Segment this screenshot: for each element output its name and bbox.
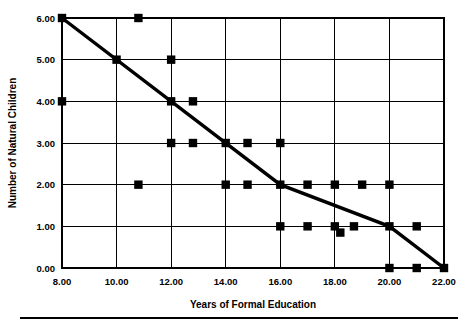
data-point-marker — [413, 264, 421, 272]
data-point-marker — [167, 55, 175, 63]
data-point-marker — [167, 97, 175, 105]
data-point-marker — [243, 139, 251, 147]
data-point-marker — [276, 139, 284, 147]
x-axis-tick-label: 20.00 — [378, 276, 402, 287]
y-axis-tick-label: 1.00 — [37, 221, 56, 232]
data-point-marker — [134, 14, 142, 22]
x-axis-tick-label: 18.00 — [323, 276, 347, 287]
data-point-marker — [58, 97, 66, 105]
y-axis-tick-label: 4.00 — [37, 96, 56, 107]
data-point-marker — [440, 264, 448, 272]
y-axis-title: Number of Natural Children — [7, 78, 18, 209]
data-point-marker — [276, 180, 284, 188]
y-axis-tick-label: 6.00 — [37, 13, 56, 24]
data-point-marker — [303, 180, 311, 188]
data-point-marker — [112, 55, 120, 63]
data-point-marker — [303, 222, 311, 230]
y-axis-tick-label: 0.00 — [37, 263, 56, 274]
x-axis-tick-label: 10.00 — [105, 276, 129, 287]
x-axis-tick-label: 14.00 — [214, 276, 238, 287]
data-point-marker — [385, 222, 393, 230]
data-point-marker — [276, 222, 284, 230]
x-axis-tick-label: 12.00 — [159, 276, 183, 287]
data-point-marker — [134, 180, 142, 188]
data-point-marker — [58, 14, 66, 22]
x-axis-tick-label: 22.00 — [432, 276, 456, 287]
data-point-marker — [413, 222, 421, 230]
x-axis-tick-label: 8.00 — [53, 276, 72, 287]
x-axis-title: Years of Formal Education — [190, 299, 316, 310]
data-point-marker — [222, 180, 230, 188]
y-axis-tick-label: 5.00 — [37, 54, 56, 65]
data-point-marker — [189, 139, 197, 147]
data-point-marker — [189, 97, 197, 105]
data-point-marker — [358, 180, 366, 188]
data-point-marker — [350, 222, 358, 230]
x-axis-tick-label: 16.00 — [268, 276, 292, 287]
data-point-marker — [385, 180, 393, 188]
data-point-marker — [222, 139, 230, 147]
data-point-marker — [331, 180, 339, 188]
y-axis-tick-label: 2.00 — [37, 179, 56, 190]
data-point-marker — [385, 264, 393, 272]
chart-figure: 0.001.002.003.004.005.006.008.0010.0012.… — [0, 0, 476, 328]
data-point-marker — [336, 228, 344, 236]
data-point-marker — [167, 139, 175, 147]
y-axis-tick-label: 3.00 — [37, 138, 56, 149]
scatter-plot: 0.001.002.003.004.005.006.008.0010.0012.… — [0, 0, 476, 328]
data-point-marker — [243, 180, 251, 188]
